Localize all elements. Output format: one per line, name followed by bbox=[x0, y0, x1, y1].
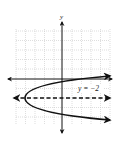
graph: y y = −2 bbox=[0, 0, 120, 143]
equation-label: y = −2 bbox=[77, 84, 99, 93]
y-axis-label: y bbox=[59, 13, 64, 21]
